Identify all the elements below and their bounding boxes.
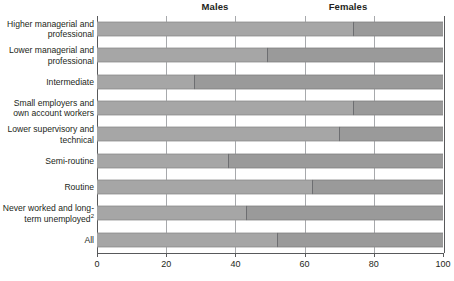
chart-rows: Higher managerial andprofessionalLower m… [0, 16, 454, 253]
stacked-bar [97, 206, 443, 221]
bar-segment-males [97, 153, 228, 168]
row-label: Lower supervisory andtechnical [2, 124, 94, 144]
bar-segment-females [353, 101, 443, 116]
x-tick-label-80: 80 [369, 259, 379, 269]
bar-segment-males [97, 180, 312, 195]
x-tick-label-0: 0 [94, 259, 99, 269]
stacked-bar [97, 22, 443, 37]
chart-row: Intermediate [0, 69, 454, 95]
chart-row: Never worked and long-term unemployed2 [0, 200, 454, 226]
bar-segment-females [312, 180, 443, 195]
chart-row: Small employers andown account workers [0, 95, 454, 121]
row-label: Semi-routine [2, 156, 94, 166]
row-label: Never worked and long-term unemployed2 [2, 203, 94, 223]
stacked-bar [97, 180, 443, 195]
bar-segment-females [228, 153, 443, 168]
chart-row: Higher managerial andprofessional [0, 16, 454, 42]
bar-segment-females [246, 206, 443, 221]
bar-segment-females [194, 74, 443, 89]
chart-legend: Males Females [0, 0, 454, 16]
row-label: Small employers andown account workers [2, 98, 94, 118]
bar-segment-females [277, 232, 443, 247]
x-tick-80 [374, 254, 375, 257]
x-tick-label-40: 40 [230, 259, 240, 269]
stacked-bar [97, 101, 443, 116]
chart-row: All [0, 227, 454, 253]
x-tick-60 [305, 254, 306, 257]
bar-segment-males [97, 74, 194, 89]
chart-row: Semi-routine [0, 148, 454, 174]
stacked-bar [97, 232, 443, 247]
legend-label-males: Males [202, 1, 229, 12]
row-label: All [2, 235, 94, 245]
bar-segment-males [97, 22, 353, 37]
row-label: Intermediate [2, 77, 94, 87]
bar-segment-females [267, 48, 443, 63]
stacked-bar-chart: Males Females Higher managerial andprofe… [0, 0, 454, 281]
bar-segment-males [97, 48, 267, 63]
row-label: Routine [2, 182, 94, 192]
row-label: Higher managerial andprofessional [2, 19, 94, 39]
chart-row: Routine [0, 174, 454, 200]
stacked-bar [97, 153, 443, 168]
bar-segment-males [97, 206, 246, 221]
x-tick-label-60: 60 [300, 259, 310, 269]
row-label: Lower managerial andprofessional [2, 45, 94, 65]
x-tick-40 [235, 254, 236, 257]
x-tick-100 [443, 254, 444, 257]
stacked-bar [97, 48, 443, 63]
bar-segment-females [353, 22, 443, 37]
bar-segment-females [339, 127, 443, 142]
x-axis: 020406080100 [0, 254, 454, 274]
chart-row: Lower managerial andprofessional [0, 42, 454, 68]
x-tick-label-20: 20 [161, 259, 171, 269]
bar-segment-males [97, 101, 353, 116]
stacked-bar [97, 74, 443, 89]
x-tick-label-100: 100 [435, 259, 450, 269]
chart-row: Lower supervisory andtechnical [0, 121, 454, 147]
x-tick-0 [97, 254, 98, 257]
bar-segment-males [97, 232, 277, 247]
legend-label-females: Females [329, 1, 368, 12]
x-tick-20 [166, 254, 167, 257]
bar-segment-males [97, 127, 339, 142]
stacked-bar [97, 127, 443, 142]
